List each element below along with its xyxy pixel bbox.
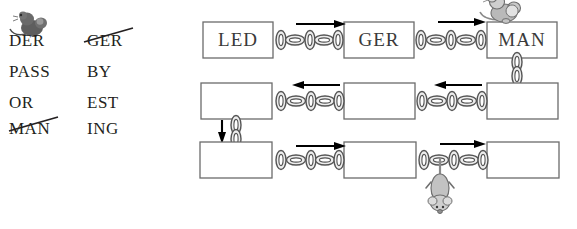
arrow-middle-1	[292, 81, 340, 89]
box-middle-1[interactable]	[201, 83, 272, 119]
word-est[interactable]: EST	[87, 93, 119, 113]
word-by[interactable]: BY	[87, 62, 112, 82]
chain-middle-1	[276, 92, 344, 111]
chain-man-down	[512, 53, 522, 86]
chain-top-1	[276, 31, 343, 50]
box-bottom-1[interactable]	[200, 142, 272, 178]
arrow-down-left	[218, 120, 226, 144]
box-label-man: MAN	[487, 29, 557, 51]
word-pass[interactable]: PASS	[9, 62, 50, 82]
chain-middle-2	[417, 92, 487, 111]
word-ger[interactable]: GER	[87, 31, 123, 51]
arrow-top-1	[296, 20, 346, 28]
box-middle-2[interactable]	[344, 83, 415, 119]
box-label-ger: GER	[344, 29, 414, 51]
box-bottom-2[interactable]	[344, 142, 416, 178]
row-bottom-group	[200, 140, 559, 214]
row-middle-group	[201, 81, 558, 149]
word-der[interactable]: DER	[9, 31, 45, 51]
word-man[interactable]: MAN	[9, 119, 50, 139]
arrow-bottom-2	[440, 140, 486, 148]
chain-bottom-2	[419, 151, 488, 170]
chain-top-2	[416, 31, 486, 50]
box-bottom-3[interactable]	[487, 142, 559, 178]
arrow-bottom-1	[296, 142, 346, 150]
box-middle-3[interactable]	[487, 83, 558, 119]
puzzle-canvas: DER PASS OR MAN GER BY EST ING LED GER M…	[0, 0, 577, 229]
word-ing[interactable]: ING	[87, 119, 119, 139]
arrow-middle-2	[434, 81, 482, 89]
arrow-top-2	[438, 18, 486, 26]
chain-bottom-1	[276, 151, 344, 170]
mouse-on-man-box	[480, 0, 521, 23]
box-label-led: LED	[203, 29, 273, 51]
word-or[interactable]: OR	[9, 93, 34, 113]
